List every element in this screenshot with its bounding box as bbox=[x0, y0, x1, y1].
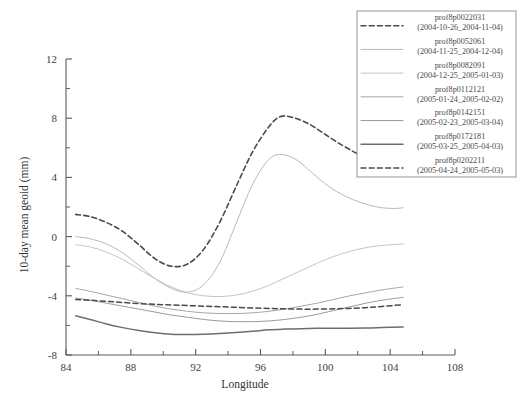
x-tick-label: 84 bbox=[61, 361, 73, 373]
legend-entry-period-prof8p0142151: (2005-02-23_2005-03-04) bbox=[417, 118, 503, 127]
x-tick-label: 92 bbox=[190, 361, 201, 373]
y-tick-label: 8 bbox=[52, 112, 58, 124]
legend-entry-period-prof8p0022031: (2004-10-26_2004-11-04) bbox=[417, 23, 503, 32]
y-tick-label: 4 bbox=[52, 171, 58, 183]
legend-entry-name-prof8p0112121: prof8p0112121 bbox=[435, 85, 485, 94]
y-tick-label: 12 bbox=[46, 53, 57, 65]
y-axis-title: 10-day mean geoid (mm) bbox=[18, 157, 31, 274]
legend-entry-period-prof8p0202211: (2005-04-24_2005-05-03) bbox=[417, 166, 503, 175]
chart-figure: -8-404812 84889296100104108 10-day mean … bbox=[0, 0, 523, 400]
legend-entry-name-prof8p0022031: prof8p0022031 bbox=[435, 13, 485, 22]
geoid-longitude-line-chart: -8-404812 84889296100104108 10-day mean … bbox=[0, 0, 523, 400]
legend-entry-name-prof8p0082091: prof8p0082091 bbox=[435, 61, 485, 70]
x-tick-label: 96 bbox=[255, 361, 267, 373]
legend-entry-period-prof8p0112121: (2005-01-24_2005-02-02) bbox=[417, 95, 503, 104]
x-tick-label: 100 bbox=[317, 361, 334, 373]
y-tick-label: -8 bbox=[48, 349, 58, 361]
chart-legend: prof8p0022031(2004-10-26_2004-11-04)prof… bbox=[357, 11, 516, 177]
legend-entry-name-prof8p0142151: prof8p0142151 bbox=[435, 108, 485, 117]
x-axis-title: Longitude bbox=[221, 378, 268, 391]
x-tick-label: 104 bbox=[382, 361, 399, 373]
legend-entry-period-prof8p0052061: (2004-11-25_2004-12-04) bbox=[417, 47, 503, 56]
legend-entry-period-prof8p0082091: (2004-12-25_2005-01-03) bbox=[417, 71, 503, 80]
x-tick-label: 108 bbox=[447, 361, 464, 373]
x-tick-label: 88 bbox=[125, 361, 137, 373]
y-tick-label: -4 bbox=[48, 290, 58, 302]
legend-entry-name-prof8p0052061: prof8p0052061 bbox=[435, 37, 485, 46]
legend-entry-name-prof8p0172181: prof8p0172181 bbox=[435, 132, 485, 141]
legend-entry-name-prof8p0202211: prof8p0202211 bbox=[435, 156, 485, 165]
legend-entry-period-prof8p0172181: (2005-03-25_2005-04-03) bbox=[417, 142, 503, 151]
y-tick-label: 0 bbox=[52, 231, 58, 243]
